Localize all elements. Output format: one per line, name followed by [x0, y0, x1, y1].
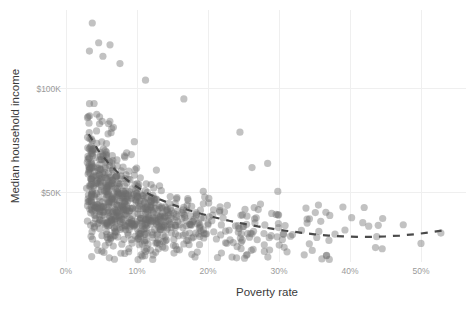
data-point	[275, 220, 282, 227]
data-point	[180, 240, 187, 247]
data-point	[234, 243, 241, 250]
data-point	[89, 146, 96, 153]
data-point	[359, 219, 366, 226]
data-point	[264, 254, 271, 261]
data-point	[139, 223, 146, 230]
data-point	[101, 211, 108, 218]
data-point	[218, 249, 225, 256]
data-point	[90, 220, 97, 227]
data-point	[317, 218, 324, 225]
data-point	[251, 204, 258, 211]
data-point	[119, 224, 126, 231]
data-point	[237, 212, 244, 219]
data-point	[341, 226, 348, 233]
data-point	[109, 152, 116, 159]
scatter-plot-figure: 0%10%20%30%40%50% $50K$100K Poverty rate…	[0, 0, 471, 313]
data-point	[125, 168, 132, 175]
data-point	[236, 129, 243, 136]
data-point	[111, 256, 118, 263]
data-point	[140, 215, 147, 222]
data-point	[96, 171, 103, 178]
data-point	[180, 232, 187, 239]
data-point	[89, 19, 96, 26]
data-point	[241, 255, 248, 262]
data-point	[97, 153, 104, 160]
data-point	[164, 217, 171, 224]
data-point	[143, 180, 150, 187]
data-point	[126, 223, 133, 230]
data-point	[379, 215, 386, 222]
data-point	[99, 118, 106, 125]
data-point	[274, 188, 281, 195]
data-point	[85, 113, 92, 120]
data-point	[224, 202, 231, 209]
data-point	[167, 193, 174, 200]
data-point	[205, 199, 212, 206]
data-point	[253, 214, 260, 221]
data-point	[102, 163, 109, 170]
data-point	[153, 232, 160, 239]
data-point	[149, 217, 156, 224]
data-point	[147, 247, 154, 254]
data-point	[261, 241, 268, 248]
data-point	[93, 127, 100, 134]
x-tick-label-20: 20%	[199, 266, 216, 276]
data-point	[221, 208, 228, 215]
data-point	[348, 214, 355, 221]
data-point	[88, 253, 95, 260]
x-tick-label-40: 40%	[341, 266, 358, 276]
data-point	[197, 223, 204, 230]
data-point	[116, 60, 123, 67]
data-point	[176, 246, 183, 253]
data-point	[417, 240, 424, 247]
data-point	[239, 237, 246, 244]
data-point	[118, 175, 125, 182]
data-point	[86, 47, 93, 54]
data-point	[163, 236, 170, 243]
data-point	[257, 200, 264, 207]
data-point	[206, 213, 213, 220]
data-point	[85, 170, 92, 177]
data-point	[88, 228, 95, 235]
data-point	[173, 213, 180, 220]
data-point	[93, 240, 100, 247]
data-point	[96, 197, 103, 204]
data-point	[131, 166, 138, 173]
data-point	[96, 206, 103, 213]
x-tick-label-30: 30%	[270, 266, 287, 276]
data-point	[84, 198, 91, 205]
y-tick-label-100000: $100K	[36, 84, 61, 94]
data-point	[134, 205, 141, 212]
data-point	[156, 204, 163, 211]
data-point	[118, 190, 125, 197]
data-point	[153, 166, 160, 173]
data-point	[326, 256, 333, 263]
data-point	[241, 206, 248, 213]
data-point	[325, 237, 332, 244]
data-point	[274, 211, 281, 218]
data-point	[180, 210, 187, 217]
data-point	[84, 153, 91, 160]
data-point	[248, 247, 255, 254]
data-point	[301, 251, 308, 258]
x-tick-label-0: 0%	[60, 266, 73, 276]
data-point	[96, 225, 103, 232]
data-point	[189, 218, 196, 225]
data-point	[318, 255, 325, 262]
x-axis-title: Poverty rate	[236, 286, 298, 298]
data-point	[196, 241, 203, 248]
data-point	[95, 39, 102, 46]
data-point	[168, 224, 175, 231]
data-point	[173, 194, 180, 201]
data-point	[184, 195, 191, 202]
data-point	[141, 239, 148, 246]
x-tick-label-50: 50%	[412, 266, 429, 276]
data-point	[201, 193, 208, 200]
data-point	[121, 154, 128, 161]
data-point	[157, 216, 164, 223]
data-point	[89, 207, 96, 214]
data-point	[222, 228, 229, 235]
data-point	[315, 228, 322, 235]
data-point	[306, 240, 313, 247]
data-point	[141, 252, 148, 259]
